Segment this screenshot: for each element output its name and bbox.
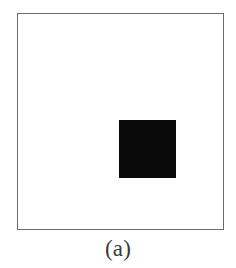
image-border-frame	[17, 13, 224, 230]
figure-panel: (a)	[0, 0, 236, 268]
figure-caption: (a)	[0, 234, 236, 264]
black-square-shape	[119, 120, 176, 178]
